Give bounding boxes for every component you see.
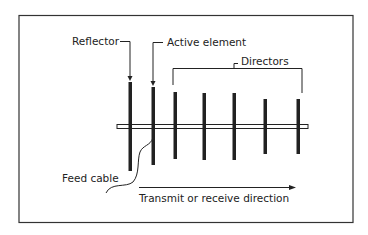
directors-label: Directors <box>241 55 289 67</box>
director-element-3 <box>233 93 237 160</box>
active-element-label: Active element <box>167 36 246 48</box>
active-element <box>152 87 156 165</box>
reflector-leader <box>120 42 130 79</box>
reflector-arrow-icon <box>128 76 133 81</box>
feed-cable-label: Feed cable <box>62 172 119 184</box>
boom <box>117 125 308 129</box>
active-element-arrow-icon <box>151 81 156 86</box>
director-element-2 <box>203 93 207 160</box>
reflector-element <box>129 82 133 171</box>
direction-label: Transmit or receive direction <box>138 192 289 204</box>
directors-bracket <box>173 64 302 94</box>
director-element-4 <box>264 99 268 154</box>
reflector-label: Reflector <box>72 35 120 47</box>
direction-arrowhead-icon <box>289 185 296 190</box>
active-element-leader <box>153 43 163 84</box>
director-element-5 <box>297 99 301 154</box>
director-element-1 <box>174 92 178 159</box>
yagi-antenna-diagram: Reflector Active element Directors Feed … <box>0 0 368 235</box>
